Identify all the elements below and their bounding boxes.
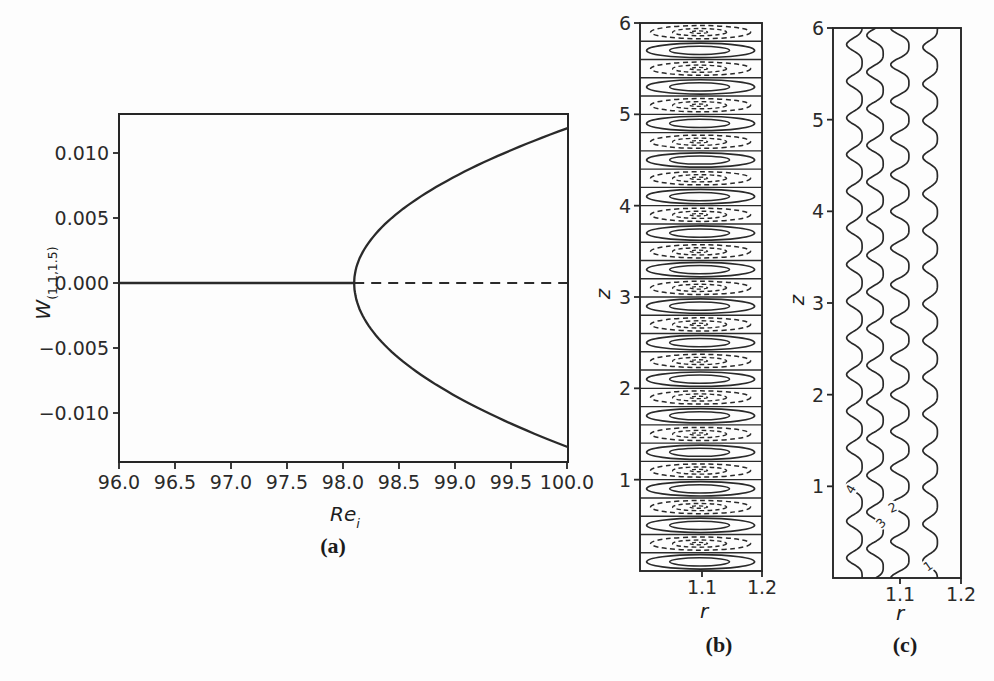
panel-a-xtick-label: 98.0 [322,471,364,493]
panel-c-rlabel: r [896,601,904,625]
vortex-contour-dashed-outer [651,245,751,258]
vortex-contour-solid-outer [647,335,755,349]
panel-c: 43211234561.11.2 [812,17,976,605]
panel-c-caption: (c) [893,632,917,658]
series-bifurcated-branch-lower [354,283,567,447]
vortex-contour-dashed-outer [651,208,751,221]
panel-c-ytick-label: 6 [812,17,824,39]
panel-c-ytick-label: 4 [812,200,824,222]
vortex-contour-solid-inner [670,302,730,310]
panel-a-xlabel: Rei [330,502,360,529]
vortex-contour-dashed-outer [651,135,751,148]
vortex-contour-solid-inner [670,156,730,164]
panel-a-ytick-label: −0.005 [39,337,109,359]
panel-b-rlabel-text: r [700,599,708,623]
vortex-contour-dashed-mid [673,394,727,401]
panel-a-xtick-label: 96.5 [154,471,196,493]
panel-a-xtick-label: 97.5 [266,471,308,493]
vortex-contour-dashed-outer [651,427,751,440]
panel-a-xlabel-sub: i [356,516,360,531]
wavy-contour-3 [867,28,883,578]
vortex-contour-solid-inner [670,83,730,91]
panel-b-ytick-label: 6 [619,12,631,34]
panel-b-ytick-label: 3 [619,286,631,308]
vortex-contour-dashed-mid [673,211,727,218]
vortex-contour-dashed-mid [673,284,727,291]
panel-a-xlabel-main: Re [330,502,356,526]
vortex-contour-dashed-inner [690,31,708,33]
vortex-contour-solid-inner [670,375,730,383]
vortex-contour-solid-inner [670,46,730,54]
vortex-contour-dashed-inner [690,542,708,544]
panel-a-xtick-label: 98.5 [378,471,420,493]
panel-c-ytick-label: 3 [812,292,824,314]
panel-b: 1234561.11.2 [619,12,777,598]
panel-c-ytick-label: 2 [812,384,824,406]
vortex-contour-dashed-mid [673,467,727,474]
panel-c-ytick-label: 5 [812,109,824,131]
panel-a-ylabel-main: W [31,300,55,320]
panel-a: 96.096.597.097.598.098.599.099.5100.00.0… [39,114,595,493]
panel-b-zlabel-text: z [591,289,615,300]
panel-b-ytick-label: 2 [619,377,631,399]
vortex-contour-dashed-outer [651,318,751,331]
panel-b-ytick-label: 1 [619,469,631,491]
figure: 96.096.597.097.598.098.599.099.5100.00.0… [0,0,994,681]
panel-a-xtick-label: 100.0 [540,471,594,493]
panel-b-xtick-label: 1.1 [687,576,717,598]
vortex-contour-dashed-mid [673,503,727,510]
vortex-contour-solid-inner [670,119,730,127]
vortex-contour-dashed-mid [673,138,727,145]
vortex-contour-dashed-inner [690,287,708,289]
vortex-contour-solid-outer [647,189,755,203]
panel-a-ytick-label: 0.010 [55,142,109,164]
vortex-contour-solid-outer [647,262,755,276]
vortex-contour-solid-outer [647,518,755,532]
vortex-contour-solid-outer [647,80,755,94]
vortex-contour-dashed-mid [673,357,727,364]
vortex-contour-dashed-inner [690,506,708,508]
vortex-contour-dashed-outer [651,62,751,75]
vortex-contour-dashed-outer [651,281,751,294]
vortex-contour-solid-outer [647,409,755,423]
panel-c-rlabel-text: r [896,601,904,625]
vortex-contour-dashed-inner [690,104,708,106]
vortex-contour-dashed-outer [651,26,751,39]
vortex-contour-solid-outer [647,43,755,57]
vortex-contour-solid-outer [647,299,755,313]
panel-b-xtick-label: 1.2 [747,576,777,598]
vortex-contour-dashed-inner [690,214,708,216]
wavy-contour-1 [923,28,938,578]
vortex-contour-dashed-mid [673,540,727,547]
vortex-contour-solid-inner [670,192,730,200]
vortex-contour-dashed-inner [690,396,708,398]
vortex-contour-dashed-inner [690,433,708,435]
vortex-contour-dashed-mid [673,248,727,255]
panel-a-ylabel-sub: (1.1,1.5) [45,246,60,300]
vortex-contour-dashed-inner [690,177,708,179]
panel-a-caption: (a) [320,533,346,559]
panel-b-zlabel: z [591,289,615,300]
vortex-contour-dashed-outer [651,354,751,367]
panel-c-ytick-label: 1 [812,475,824,497]
vortex-contour-dashed-inner [690,141,708,143]
vortex-contour-dashed-outer [651,172,751,185]
vortex-contour-dashed-outer [651,537,751,550]
panel-a-ylabel: W(1.1,1.5) [31,246,58,319]
figure-canvas: 96.096.597.097.598.098.599.099.5100.00.0… [0,0,994,681]
panel-c-zlabel: z [785,295,809,306]
vortex-contour-solid-outer [647,555,755,569]
panel-a-xtick-label: 96.0 [98,471,140,493]
panel-b-ytick-label: 4 [619,195,631,217]
panel-a-axes-box [119,114,568,462]
vortex-contour-solid-inner [670,558,730,566]
series-bifurcated-branch-upper [354,128,567,283]
vortex-contour-solid-inner [670,266,730,274]
vortex-contour-solid-outer [647,482,755,496]
vortex-contour-solid-inner [670,229,730,237]
vortex-contour-dashed-mid [673,430,727,437]
vortex-contour-dashed-mid [673,29,727,36]
panel-b-rlabel: r [700,599,708,623]
vortex-contour-dashed-inner [690,360,708,362]
vortex-contour-dashed-mid [673,175,727,182]
